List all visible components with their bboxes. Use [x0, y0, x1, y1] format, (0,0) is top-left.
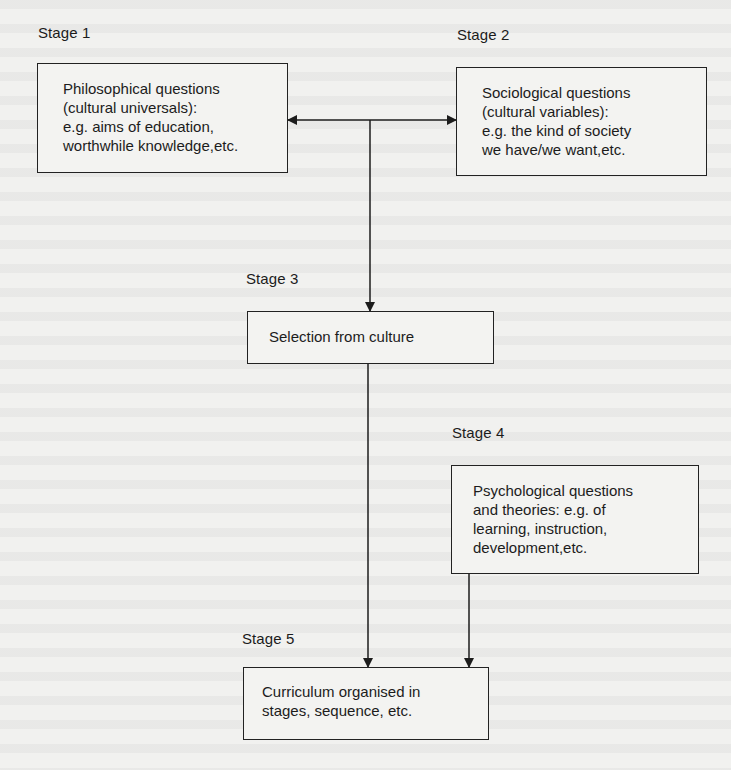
stage-1-text-line: worthwhile knowledge,etc.: [63, 136, 287, 155]
stage-4-text-line: Psychological questions: [473, 481, 698, 500]
stage-5-text-line: stages, sequence, etc.: [262, 701, 488, 720]
stage-2-label: Stage 2: [457, 26, 509, 43]
stage-4-text-line: and theories: e.g. of: [473, 500, 698, 519]
stage-4-text-line: learning, instruction,: [473, 519, 698, 538]
stage-2-text-line: we have/we want,etc.: [482, 140, 706, 159]
stage-1-box: Philosophical questions (cultural univer…: [37, 63, 288, 173]
stage-4-label: Stage 4: [452, 424, 504, 441]
stage-5-label: Stage 5: [242, 630, 294, 647]
stage-2-text-line: Sociological questions: [482, 83, 706, 102]
stage-3-label: Stage 3: [246, 270, 298, 287]
stage-4-box: Psychological questions and theories: e.…: [451, 465, 699, 574]
stage-1-text-line: Philosophical questions: [63, 79, 287, 98]
stage-2-text-line: (cultural variables):: [482, 102, 706, 121]
stage-3-text-line: Selection from culture: [269, 327, 493, 346]
stage-5-text-line: Curriculum organised in: [262, 682, 488, 701]
stage-4-text-line: development,etc.: [473, 538, 698, 557]
stage-1-text-line: (cultural universals):: [63, 98, 287, 117]
stage-5-box: Curriculum organised in stages, sequence…: [243, 667, 489, 740]
stage-2-box: Sociological questions (cultural variabl…: [456, 67, 707, 176]
stage-1-text-line: e.g. aims of education,: [63, 117, 287, 136]
stage-2-text-line: e.g. the kind of society: [482, 121, 706, 140]
stage-1-label: Stage 1: [38, 24, 90, 41]
stage-3-box: Selection from culture: [247, 311, 494, 364]
